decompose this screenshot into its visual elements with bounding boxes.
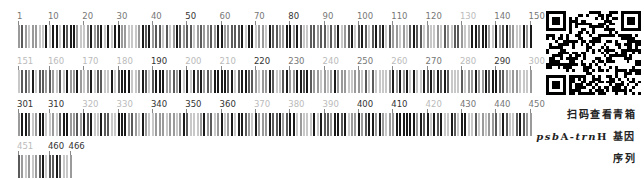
base-bar [63, 113, 65, 136]
base-bar [124, 70, 126, 93]
base-bar [234, 25, 236, 48]
base-bar [56, 25, 58, 48]
base-bar [457, 113, 459, 136]
base-bar [162, 70, 164, 93]
base-bar [289, 113, 291, 136]
position-labels: 451460466 [18, 142, 538, 155]
base-bar [76, 25, 78, 48]
base-bar [241, 70, 243, 93]
base-bar [320, 25, 322, 48]
base-bar [313, 25, 315, 48]
base-bar [159, 113, 161, 136]
qr-code[interactable] [546, 11, 641, 95]
base-bar [423, 25, 425, 48]
base-bar [207, 25, 209, 48]
base-bar [162, 113, 164, 136]
base-bar [59, 70, 61, 93]
base-bar [361, 25, 363, 48]
base-bar [214, 70, 216, 93]
base-bar [300, 70, 302, 93]
base-bar [87, 70, 89, 93]
position-label: 90 [323, 12, 334, 21]
base-bar [248, 70, 250, 93]
base-bar [73, 70, 75, 93]
base-bar [461, 113, 463, 136]
position-label: 280 [460, 57, 476, 66]
base-bar [231, 25, 233, 48]
base-bar [327, 70, 329, 93]
base-bar [245, 70, 247, 93]
base-bar [375, 70, 377, 93]
base-bar [423, 70, 425, 93]
base-bar [42, 155, 44, 178]
base-bar [372, 70, 374, 93]
base-bar [186, 113, 188, 136]
base-bar [293, 25, 295, 48]
base-bar [107, 25, 109, 48]
base-bar [403, 70, 405, 93]
base-bar [499, 25, 501, 48]
base-bar [190, 70, 192, 93]
base-bar [179, 113, 181, 136]
position-labels: 1102030405060708090100110120130140150 [18, 12, 538, 25]
base-bar [482, 25, 484, 48]
base-bar [427, 70, 429, 93]
base-bar [45, 155, 47, 178]
base-bar [523, 25, 525, 48]
position-label: 350 [185, 100, 201, 109]
base-bar [516, 70, 518, 93]
base-bar [39, 113, 41, 136]
base-bar [28, 155, 30, 178]
base-bar [148, 113, 150, 136]
base-bar [530, 25, 532, 48]
position-label: 150 [529, 12, 545, 21]
base-bar [32, 70, 34, 93]
base-bar [200, 113, 202, 136]
base-bar [214, 25, 216, 48]
base-bar [454, 70, 456, 93]
base-bar [461, 70, 463, 93]
base-bar [238, 70, 240, 93]
base-bar [73, 25, 75, 48]
base-bar [351, 25, 353, 48]
base-bar [52, 25, 54, 48]
position-label: 440 [494, 100, 510, 109]
base-bar [66, 25, 68, 48]
base-bar [519, 113, 521, 136]
base-bar [475, 25, 477, 48]
base-bar [334, 25, 336, 48]
base-bar [492, 70, 494, 93]
base-bar [21, 113, 23, 136]
base-bar [502, 70, 504, 93]
base-bar [444, 25, 446, 48]
position-label: 80 [288, 12, 299, 21]
base-bar [502, 25, 504, 48]
base-bar [56, 155, 58, 178]
base-bar [227, 70, 229, 93]
position-label: 466 [69, 142, 85, 151]
base-bar [186, 25, 188, 48]
base-bar [25, 70, 27, 93]
base-bar [111, 25, 113, 48]
base-bar [186, 70, 188, 93]
base-bar [433, 70, 435, 93]
base-bar [39, 70, 41, 93]
base-bar [138, 113, 140, 136]
base-bar [303, 25, 305, 48]
base-bar [52, 155, 54, 178]
base-bar [276, 70, 278, 93]
base-bar [100, 70, 102, 93]
base-bar [49, 70, 51, 93]
base-bar [341, 113, 343, 136]
base-bar [451, 113, 453, 136]
base-bar [454, 113, 456, 136]
base-bar [509, 70, 511, 93]
base-bar [59, 113, 61, 136]
base-bar [499, 113, 501, 136]
base-bar [35, 25, 37, 48]
base-bar [169, 70, 171, 93]
base-bar [282, 25, 284, 48]
base-bar [214, 113, 216, 136]
base-bar [276, 113, 278, 136]
base-bar [70, 113, 72, 136]
